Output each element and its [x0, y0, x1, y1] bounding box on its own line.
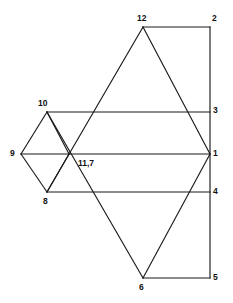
edge-12-1	[143, 27, 210, 154]
edge-9-10	[21, 112, 47, 154]
edge-group	[21, 27, 210, 278]
edge-9-8	[21, 154, 47, 192]
vertex-label-8: 8	[43, 197, 48, 206]
vertex-label-1: 1	[213, 149, 218, 158]
vertex-label-10: 10	[38, 99, 47, 108]
vertex-label-4: 4	[213, 187, 218, 196]
edge-12-117-8-ray	[47, 27, 143, 192]
vertex-label-5: 5	[213, 273, 218, 282]
vertex-label-9: 9	[10, 149, 15, 158]
edge-1-6	[143, 154, 210, 278]
edge-10-6	[47, 112, 143, 278]
vertex-label-2: 2	[212, 14, 217, 23]
vertex-label-11-7: 11,7	[78, 159, 94, 168]
vertex-label-12: 12	[137, 14, 146, 23]
diagram-canvas: 122103911,718465	[0, 0, 233, 303]
vertex-label-3: 3	[213, 106, 218, 115]
figure-svg	[0, 0, 233, 303]
vertex-label-6: 6	[139, 283, 144, 292]
